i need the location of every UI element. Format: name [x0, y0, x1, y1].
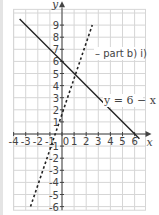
y-tick-label: -2 — [49, 153, 59, 164]
y-axis-label: y — [51, 0, 59, 11]
y-axis-arrow-icon — [59, 1, 65, 7]
annotation-part-b-i: – part b) i) — [95, 48, 147, 59]
x-tick-label: 4 — [107, 136, 113, 147]
y-tick-label: 2 — [53, 105, 59, 116]
y-tick-label: -4 — [49, 177, 59, 188]
x-tick-label: -2 — [33, 136, 43, 147]
y-tick-label: 5 — [53, 69, 59, 80]
x-tick-label: -4 — [9, 136, 19, 147]
y-tick-label: 3 — [53, 93, 59, 104]
x-tick-label: -3 — [21, 136, 31, 147]
x-tick-label: 1 — [71, 136, 77, 147]
y-tick-label: -6 — [49, 202, 59, 213]
x-tick-label: 6 — [131, 136, 137, 147]
y-tick-label: -3 — [49, 165, 59, 176]
y-tick-label: -5 — [49, 190, 59, 201]
annotation-y-equals-6-minus-x: y = 6 − x — [103, 94, 157, 107]
y-tick-label: 4 — [53, 81, 59, 92]
y-tick-label: -1 — [49, 141, 59, 152]
x-tick-label: 3 — [95, 136, 101, 147]
dashed-line-part-b-i — [31, 25, 93, 207]
x-tick-label: 2 — [83, 136, 89, 147]
coordinate-graph: -4-3-2-10123456-6-5-4-3-2-1123456789xy– … — [0, 0, 159, 215]
y-tick-label: 8 — [53, 32, 59, 43]
x-tick-label: 0 — [63, 136, 69, 147]
y-tick-label: 1 — [53, 117, 59, 128]
y-tick-label: 9 — [53, 20, 59, 31]
x-tick-label: 5 — [119, 136, 125, 147]
x-axis-label: x — [146, 136, 153, 149]
